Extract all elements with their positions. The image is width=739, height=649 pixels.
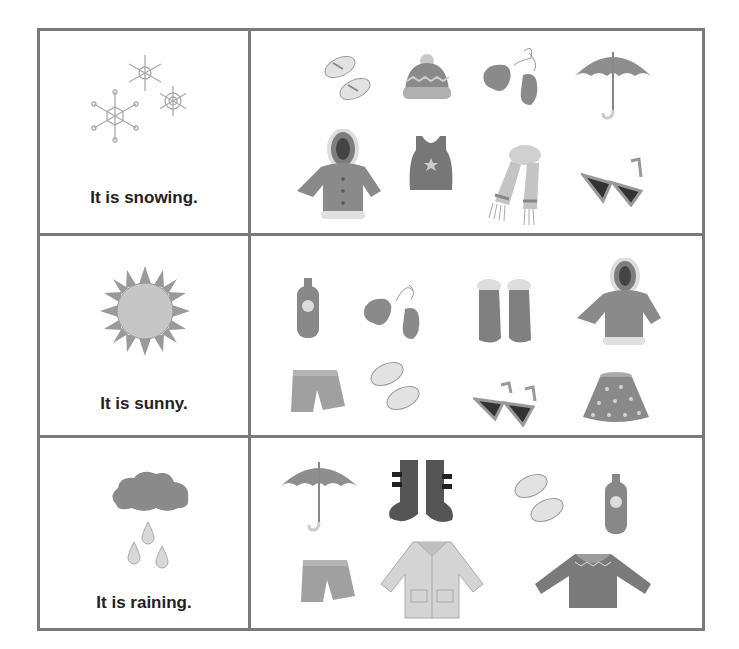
sweater-icon bbox=[531, 550, 656, 612]
winter-coat-icon bbox=[573, 258, 665, 350]
weather-clothing-table: It is snowing. bbox=[37, 28, 705, 631]
flip-flops-icon bbox=[323, 51, 373, 106]
clothing-items bbox=[251, 31, 702, 233]
clothing-items bbox=[251, 438, 702, 631]
shorts-icon bbox=[299, 556, 357, 606]
mittens-icon bbox=[361, 281, 436, 346]
row-snowing: It is snowing. bbox=[40, 31, 702, 233]
skirt-icon bbox=[581, 371, 651, 426]
winter-boots-icon bbox=[469, 276, 539, 346]
flip-flops-icon bbox=[369, 356, 424, 416]
sun-icon bbox=[100, 266, 190, 356]
rain-boots-icon bbox=[384, 456, 459, 531]
scarf-icon bbox=[487, 143, 549, 228]
winter-coat-icon bbox=[293, 129, 385, 224]
sunscreen-icon bbox=[293, 276, 323, 341]
mittens-icon bbox=[479, 43, 554, 113]
weather-cell-snowing: It is snowing. bbox=[40, 31, 251, 233]
sunscreen-icon bbox=[601, 472, 631, 537]
shorts-icon bbox=[289, 366, 347, 416]
weather-caption: It is raining. bbox=[40, 593, 248, 613]
row-raining: It is raining. bbox=[40, 435, 702, 631]
sunglasses-icon bbox=[581, 157, 646, 207]
snowflakes-icon bbox=[85, 51, 195, 161]
knit-hat-icon bbox=[399, 49, 454, 104]
weather-caption: It is sunny. bbox=[40, 394, 248, 414]
sunglasses-icon bbox=[473, 379, 538, 427]
rain-cloud-icon bbox=[108, 466, 193, 576]
weather-cell-raining: It is raining. bbox=[40, 438, 251, 631]
raincoat-icon bbox=[377, 536, 487, 621]
umbrella-icon bbox=[279, 458, 359, 533]
umbrella-icon bbox=[573, 46, 653, 121]
flip-flops-icon bbox=[513, 468, 568, 528]
weather-caption: It is snowing. bbox=[40, 188, 248, 208]
tank-top-icon bbox=[406, 134, 456, 194]
row-sunny: It is sunny. bbox=[40, 233, 702, 435]
weather-cell-sunny: It is sunny. bbox=[40, 236, 251, 435]
clothing-items bbox=[251, 236, 702, 435]
